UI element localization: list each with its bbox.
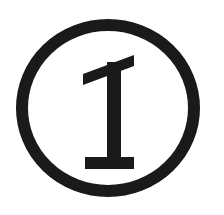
letter-bottom-serif: [85, 157, 134, 169]
glyph-canvas: Circled capital letter I: [0, 0, 224, 215]
letter-stem: [107, 62, 121, 158]
circled-letter-i-graphic: [0, 0, 224, 215]
